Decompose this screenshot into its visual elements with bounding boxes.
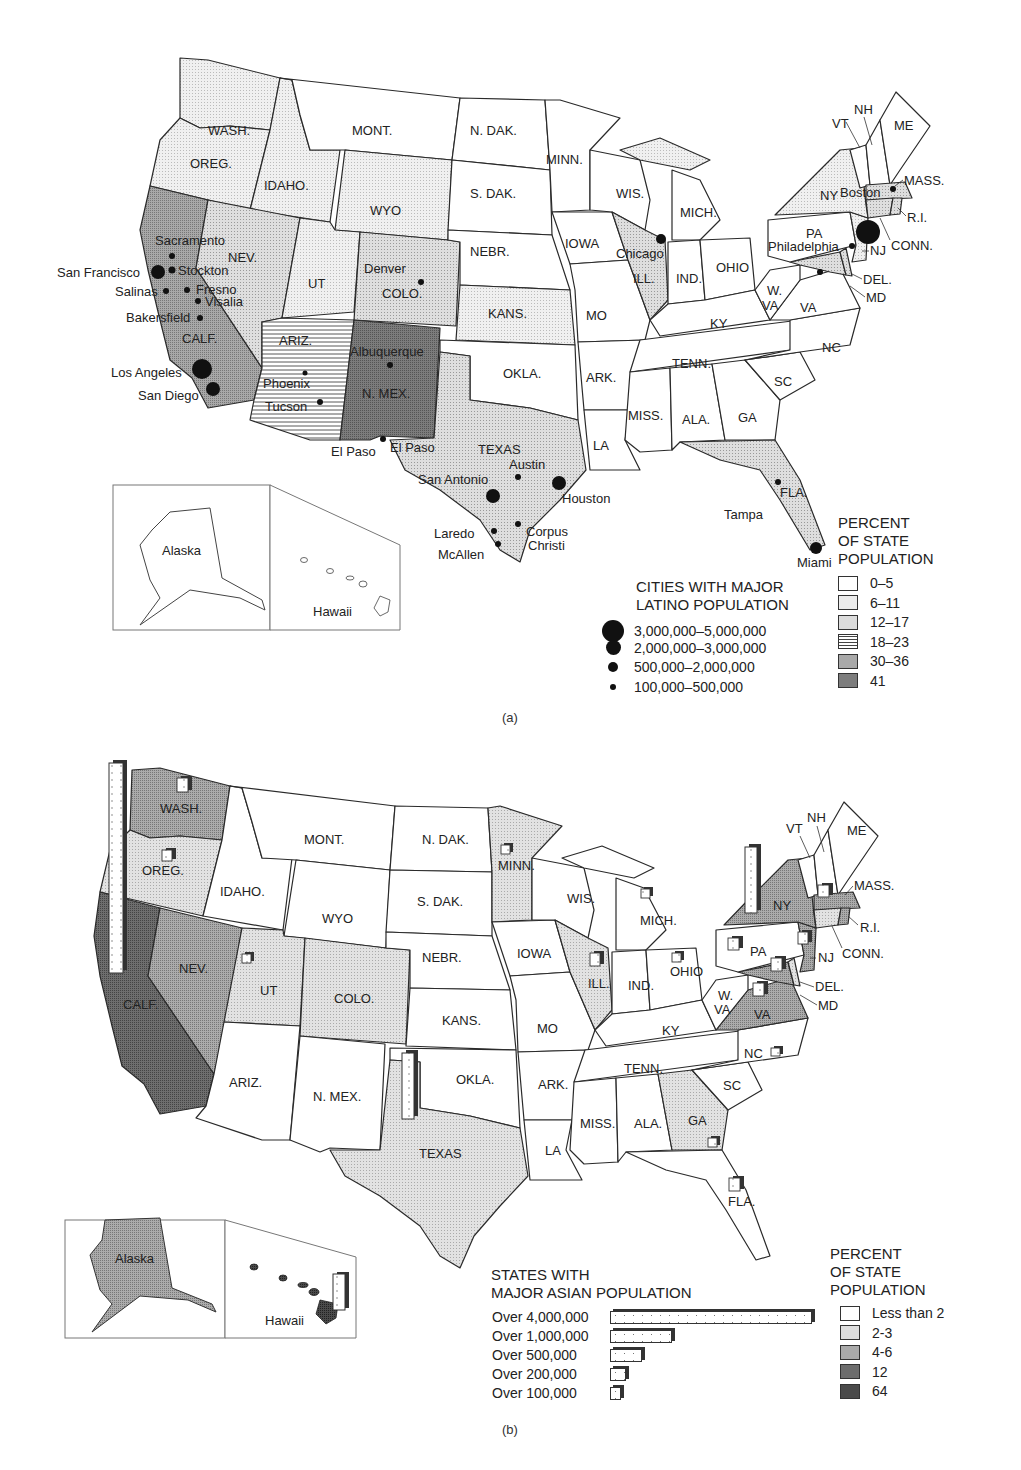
city-size-dot-icon — [606, 640, 621, 655]
legend-item: 64 — [840, 1383, 888, 1399]
population-bar-icon — [610, 1387, 621, 1400]
asian-legend-item: Over 100,000 — [492, 1385, 621, 1401]
asian-legend-title: STATES WITH MAJOR ASIAN POPULATION — [491, 1266, 692, 1302]
state-me — [880, 92, 930, 185]
city-bakersfield: Bakersfield — [126, 310, 190, 325]
percent-legend-b-title: PERCENT OF STATE POPULATION — [830, 1245, 926, 1299]
label-wyo: WYO — [370, 203, 401, 218]
city-miami: Miami — [797, 555, 832, 570]
label-sc: SC — [774, 374, 792, 389]
cities-legend-item: 100,000–500,000 — [600, 679, 743, 695]
label-ill: ILL. — [633, 271, 655, 286]
label-nh: NH — [854, 102, 873, 117]
label-la: LA — [545, 1143, 561, 1158]
city-san-diego: San Diego — [138, 388, 199, 403]
asian-legend-label: Over 500,000 — [492, 1347, 610, 1363]
label-me: ME — [894, 118, 914, 133]
legend-swatch — [838, 634, 858, 649]
city-mcallen: McAllen — [438, 547, 484, 562]
label-va: VA — [800, 300, 817, 315]
label-vt: VT — [832, 116, 849, 131]
label-ut: UT — [308, 276, 325, 291]
label-mont: MONT. — [352, 123, 392, 138]
city-austin: Austin — [509, 457, 545, 472]
percent-legend-a-title: PERCENT OF STATE POPULATION — [838, 514, 934, 568]
legend-item: 12 — [840, 1364, 888, 1380]
asian-legend-label: Over 200,000 — [492, 1366, 610, 1382]
city-el-paso: El Paso — [390, 440, 435, 455]
label-mo: MO — [537, 1021, 558, 1036]
label-ark: ARK. — [586, 370, 616, 385]
label-hawaii: Hawaii — [265, 1313, 304, 1328]
state-conn — [814, 908, 841, 928]
cities-legend-title-line1: CITIES WITH MAJOR — [636, 578, 789, 596]
percent-legend-b-line2: OF STATE — [830, 1263, 926, 1281]
legend-item: 2-3 — [840, 1325, 892, 1341]
label-iowa: IOWA — [517, 946, 552, 961]
label-texas: TEXAS — [419, 1146, 462, 1161]
cities-legend-label: 100,000–500,000 — [634, 679, 743, 695]
legend-item: 12–17 — [838, 614, 909, 630]
city-corpus-christi-1: Corpus — [526, 524, 568, 539]
state-wyo — [335, 150, 452, 240]
label-nc: NC — [744, 1046, 763, 1061]
label-ind: IND. — [676, 271, 702, 286]
label-ndak: N. DAK. — [470, 123, 517, 138]
label-wis: WIS. — [567, 891, 595, 906]
label-miss: MISS. — [628, 408, 663, 423]
cities-legend-item: 500,000–2,000,000 — [600, 659, 755, 675]
inset-alaska-hawaii: Alaska Hawaii — [113, 485, 400, 630]
label-va: VA — [754, 1007, 771, 1022]
label-wis: WIS. — [616, 186, 644, 201]
label-kans: KANS. — [488, 306, 527, 321]
legend-label: 64 — [872, 1383, 888, 1399]
asian-legend-item: Over 4,000,000 — [492, 1309, 812, 1325]
label-nc: NC — [822, 340, 841, 355]
label-wyo: WYO — [322, 911, 353, 926]
legend-swatch — [840, 1325, 860, 1340]
label-md: MD — [866, 290, 886, 305]
label-nmex: N. MEX. — [362, 386, 410, 401]
label-conn: CONN. — [842, 946, 884, 961]
state-wyo — [284, 860, 390, 948]
population-bar-icon — [610, 1330, 672, 1343]
city-boston: Boston — [840, 185, 880, 200]
label-md: MD — [818, 998, 838, 1013]
city-tucson: Tucson — [265, 399, 307, 414]
legend-label: 0–5 — [870, 575, 893, 591]
legend-label: 6–11 — [870, 595, 900, 611]
label-mich: MICH. — [680, 205, 717, 220]
legend-swatch — [840, 1384, 860, 1399]
cities-legend-title: CITIES WITH MAJOR LATINO POPULATION — [636, 578, 789, 614]
label-nj: NJ — [870, 243, 886, 258]
label-calf: CALF. — [182, 331, 217, 346]
label-ga: GA — [688, 1113, 707, 1128]
cities-legend-item: 2,000,000–3,000,000 — [600, 640, 766, 656]
label-nev: NEV. — [179, 961, 208, 976]
population-bar-icon — [610, 1349, 642, 1362]
label-ny: NY — [773, 898, 791, 913]
legend-item: 6–11 — [838, 595, 900, 611]
asian-legend-title-line2: MAJOR ASIAN POPULATION — [491, 1284, 692, 1302]
legend-item: 0–5 — [838, 575, 893, 591]
percent-legend-b-line3: POPULATION — [830, 1281, 926, 1299]
label-mo: MO — [586, 308, 607, 323]
label-la: LA — [593, 438, 609, 453]
label-alaska: Alaska — [115, 1251, 155, 1266]
label-nj: NJ — [818, 950, 834, 965]
city-stockton: Stockton — [178, 263, 229, 278]
city-denver: Denver — [364, 261, 407, 276]
label-mass: MASS. — [904, 173, 944, 188]
city-corpus-christi-2: Christi — [528, 538, 565, 553]
label-del: DEL. — [815, 979, 844, 994]
label-wva-1: W. — [718, 988, 733, 1003]
label-mass: MASS. — [854, 878, 894, 893]
inset-alaska-hawaii-b: Alaska Hawaii — [65, 1218, 356, 1338]
label-nmex: N. MEX. — [313, 1089, 361, 1104]
label-sc: SC — [723, 1078, 741, 1093]
label-ariz: ARIZ. — [229, 1075, 262, 1090]
city-visalia: Visalia — [205, 294, 244, 309]
legend-swatch — [838, 654, 858, 669]
population-bar-icon — [610, 1311, 812, 1324]
city-san-francisco: San Francisco — [57, 265, 140, 280]
